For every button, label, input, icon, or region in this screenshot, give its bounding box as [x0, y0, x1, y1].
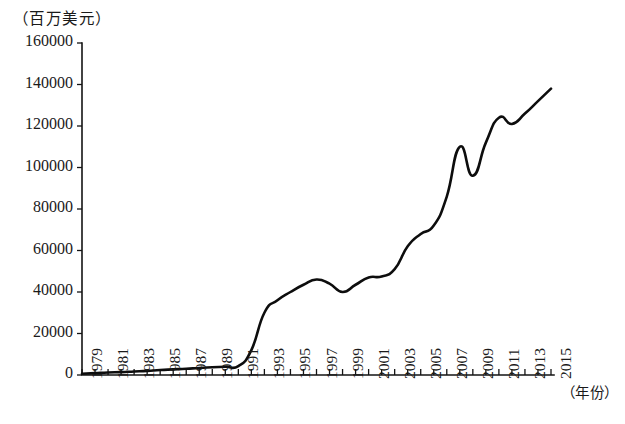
x-tick-label: 1993: [270, 348, 288, 379]
x-tick-label: 1989: [218, 348, 236, 379]
x-tick-label: 1997: [323, 348, 341, 379]
x-tick-label: 1983: [140, 348, 158, 379]
axes-group: [82, 43, 554, 375]
x-tick-label: 1985: [166, 348, 184, 379]
x-tick-label: 2005: [427, 348, 445, 379]
x-tick-label: 1995: [296, 348, 314, 379]
y-tick-label: 120000: [25, 115, 73, 133]
x-tick-label: 1981: [114, 348, 132, 379]
x-tick-label: 2011: [505, 349, 523, 379]
y-tick-label: 40000: [33, 281, 73, 299]
y-tick-label: 160000: [25, 32, 73, 50]
x-tick-label: 2007: [453, 348, 471, 379]
x-tick-label: 1991: [244, 348, 262, 379]
y-tick-label: 20000: [33, 323, 73, 341]
axis-lines: [82, 43, 554, 375]
x-tick-label: 2009: [479, 348, 497, 379]
x-tick-label: 2001: [375, 348, 393, 379]
y-tick-label: 80000: [33, 198, 73, 216]
x-tick-label: 2013: [531, 348, 549, 379]
x-tick-label: 1999: [349, 348, 367, 379]
x-tick-label: 1979: [88, 348, 106, 379]
y-tick-label: 60000: [33, 240, 73, 258]
series-group: [82, 89, 551, 374]
x-tick-label: 2015: [557, 348, 575, 379]
y-tick-label: 100000: [25, 157, 73, 175]
x-tick-label: 2003: [401, 348, 419, 379]
y-tick-label: 140000: [25, 74, 73, 92]
x-tick-label: 1987: [192, 348, 210, 379]
series-line: [82, 89, 551, 374]
chart-container: （百万美元） （年份） 0200004000060000800001000001…: [0, 0, 625, 424]
y-tick-label: 0: [65, 364, 73, 382]
